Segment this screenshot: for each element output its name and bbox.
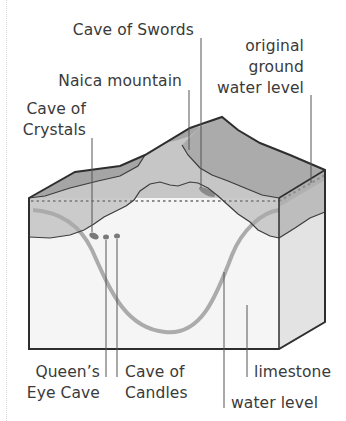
- label-original-l1: original: [200, 36, 304, 57]
- label-cave-of-swords: Cave of Swords: [60, 20, 194, 41]
- label-queens-eye-l1: Queen’s: [14, 362, 100, 383]
- label-original-l2: ground: [200, 57, 304, 78]
- label-original-l3: water level: [200, 78, 304, 99]
- label-naica-mountain: Naica mountain: [40, 71, 182, 92]
- label-water-level: water level: [231, 393, 318, 414]
- label-cave-of-candles-l1: Cave of: [125, 362, 185, 383]
- label-limestone: limestone: [254, 362, 331, 383]
- label-cave-of-crystals-l2: Crystals: [10, 120, 86, 141]
- cave-of-candles-shape: [114, 234, 120, 239]
- label-cave-of-crystals-l1: Cave of: [10, 99, 86, 120]
- label-cave-of-candles-l2: Candles: [125, 383, 188, 404]
- queens-eye-cave-shape: [103, 235, 109, 240]
- label-queens-eye-l2: Eye Cave: [14, 383, 100, 404]
